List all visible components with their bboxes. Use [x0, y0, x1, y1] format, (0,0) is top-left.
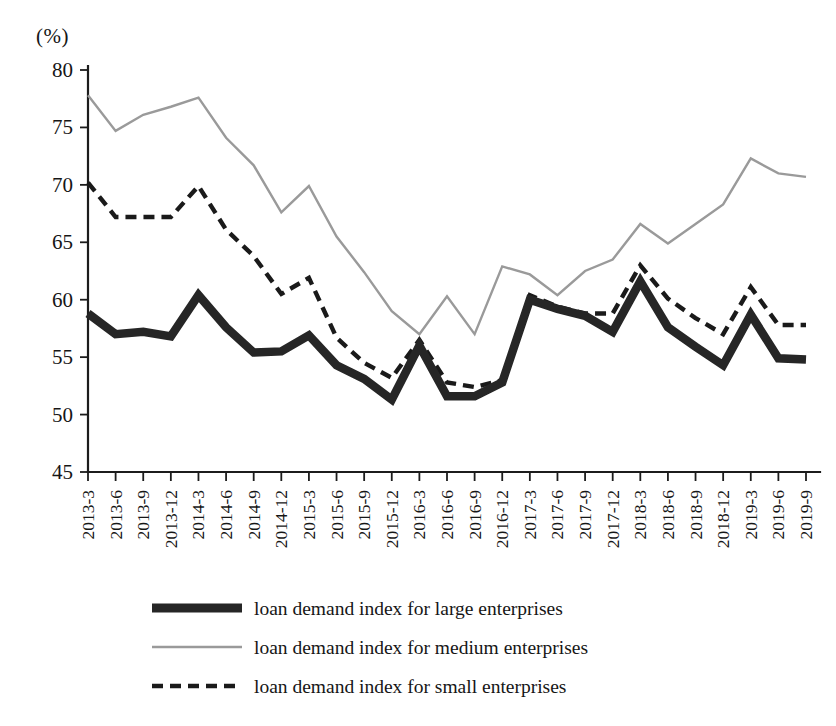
x-axis-tick-label: 2016-12	[492, 490, 512, 548]
y-axis-tick-label: 65	[52, 230, 73, 254]
y-axis-tick-label: 70	[52, 173, 73, 197]
chart-figure: (%) 4550556065707580 2013-32013-62013-92…	[0, 0, 836, 726]
y-axis-tick-group: 4550556065707580	[52, 58, 88, 484]
series-line-small-enterprises	[88, 183, 806, 387]
x-axis-tick-label: 2019-3	[741, 490, 761, 540]
y-axis-tick-label: 60	[52, 288, 73, 312]
x-axis-tick-label: 2018-3	[630, 490, 650, 540]
y-axis-tick-label: 75	[52, 115, 73, 139]
x-axis-tick-group	[88, 472, 806, 481]
x-axis-tick-label: 2017-6	[547, 490, 567, 540]
x-axis-tick-label: 2014-12	[271, 490, 291, 548]
x-axis-label-group: 2013-32013-62013-92013-122014-32014-6201…	[78, 490, 816, 549]
y-axis-tick-label: 80	[52, 58, 73, 82]
x-axis-tick-label: 2019-9	[796, 490, 816, 540]
legend-item-label: loan demand index for large enterprises	[254, 598, 563, 619]
x-axis-tick-label: 2018-12	[713, 490, 733, 548]
x-axis-tick-label: 2018-6	[658, 490, 678, 540]
y-axis-tick-label: 50	[52, 403, 73, 427]
x-axis-tick-label: 2013-9	[133, 490, 153, 540]
x-axis-tick-label: 2017-9	[575, 490, 595, 540]
x-axis-tick-label: 2016-3	[409, 490, 429, 540]
x-axis-tick-label: 2015-6	[327, 490, 347, 540]
x-axis-tick-label: 2014-9	[244, 490, 264, 540]
x-axis-tick-label: 2013-3	[78, 490, 98, 540]
line-chart-svg: 4550556065707580 2013-32013-62013-92013-…	[0, 0, 836, 726]
x-axis-tick-label: 2017-12	[603, 490, 623, 548]
x-axis-tick-label: 2019-6	[768, 490, 788, 540]
y-axis-tick-label: 55	[52, 345, 73, 369]
x-axis-tick-label: 2013-6	[106, 490, 126, 540]
x-axis-tick-label: 2018-9	[686, 490, 706, 540]
x-axis-tick-label: 2015-3	[299, 490, 319, 540]
x-axis-tick-label: 2017-3	[520, 490, 540, 540]
x-axis-tick-label: 2016-9	[465, 490, 485, 540]
y-axis-tick-label: 45	[52, 460, 73, 484]
chart-legend: loan demand index for large enterprisesl…	[152, 598, 588, 697]
legend-item-label: loan demand index for small enterprises	[254, 676, 566, 697]
x-axis-tick-label: 2013-12	[161, 490, 181, 548]
x-axis-tick-label: 2014-6	[216, 490, 236, 540]
x-axis-tick-label: 2014-3	[188, 490, 208, 540]
x-axis-tick-label: 2015-9	[354, 490, 374, 540]
x-axis-tick-label: 2016-6	[437, 490, 457, 540]
legend-item-label: loan demand index for medium enterprises	[254, 637, 588, 658]
x-axis-tick-label: 2015-12	[382, 490, 402, 548]
